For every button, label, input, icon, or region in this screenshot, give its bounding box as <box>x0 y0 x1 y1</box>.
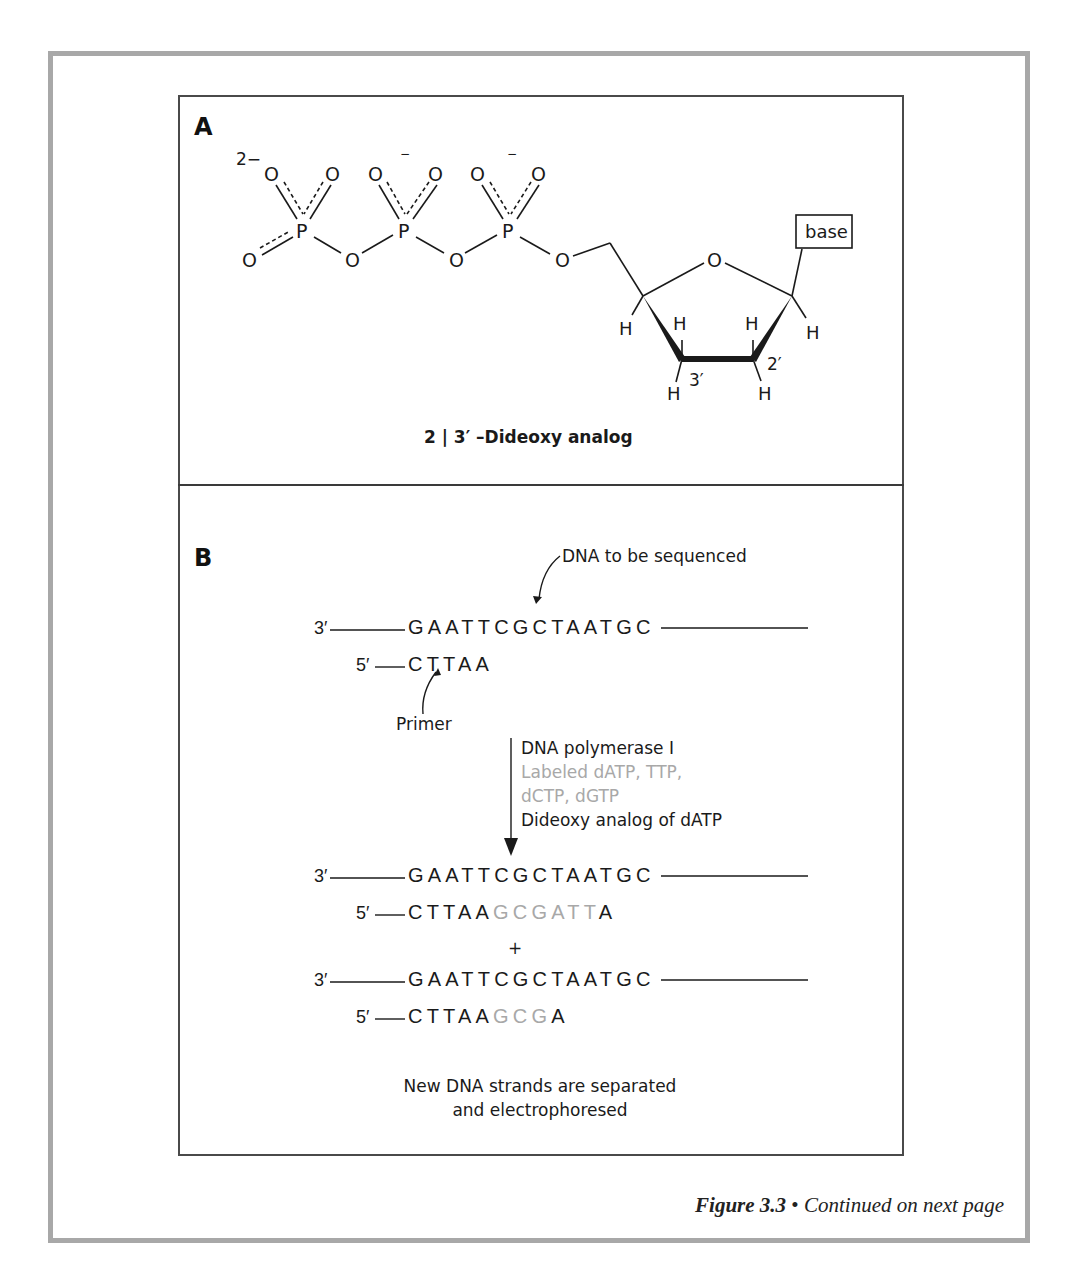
product2-template-sequence: GAATTCGCTAATGC <box>408 968 655 991</box>
enzyme-label: DNA polymerase I <box>521 738 674 758</box>
product1-template-sequence: GAATTCGCTAATGC <box>408 864 655 887</box>
product1-template-end: 3′ <box>314 866 327 887</box>
primer-5prime-end: 5′ <box>356 655 369 676</box>
labeled-extension: GCG <box>493 1005 551 1027</box>
dideoxy-terminal-base: A <box>551 1005 569 1027</box>
labeled-extension: GCGATT <box>493 901 599 923</box>
continuation-note: Continued on next page <box>804 1193 1004 1217</box>
labeled-nucleotides-label-2: dCTP, dGTP <box>521 786 619 806</box>
product1-strand: CTTAAGCGATTA <box>408 901 616 924</box>
conclusion-text: New DNA strands are separated and electr… <box>390 1074 690 1122</box>
figure-caption: Figure 3.3 • Continued on next page <box>695 1193 1004 1218</box>
conclusion-line-1: New DNA strands are separated <box>390 1074 690 1098</box>
product1-primer-end: 5′ <box>356 903 369 924</box>
labeled-nucleotides-label: Labeled dATP, TTP, <box>521 762 682 782</box>
template-3prime-end: 3′ <box>314 618 327 639</box>
plus-sign: + <box>508 938 522 958</box>
product2-template-end: 3′ <box>314 970 327 991</box>
dideoxy-terminal-base: A <box>599 901 617 923</box>
terminator-label: Dideoxy analog of dATP <box>521 810 722 830</box>
primer-sequence: CTTAA <box>408 653 493 676</box>
conclusion-line-2: and electrophoresed <box>390 1098 690 1122</box>
figure-number: Figure 3.3 <box>695 1193 786 1217</box>
primer-part: CTTAA <box>408 1005 493 1027</box>
template-sequence: GAATTCGCTAATGC <box>408 616 655 639</box>
caption-bullet: • <box>791 1193 798 1217</box>
product2-strand: CTTAAGCGA <box>408 1005 569 1028</box>
primer-part: CTTAA <box>408 901 493 923</box>
product2-primer-end: 5′ <box>356 1007 369 1028</box>
